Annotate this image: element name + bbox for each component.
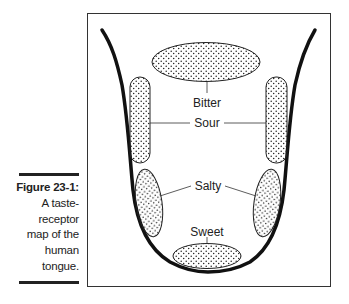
bitter-label: Bitter [193,96,221,110]
sweet-region [173,244,241,269]
salty-region-right [249,168,284,239]
tongue-diagram: Bitter Sour Salty Sweet [0,0,349,304]
salty-leader-line-right [225,186,256,196]
salty-leader-line-left [160,186,191,196]
sour-region-right [266,77,287,163]
salty-region-left [131,168,166,239]
salty-label: Salty [195,179,222,193]
sweet-label: Sweet [190,225,224,239]
bitter-region [152,43,260,82]
sour-label: Sour [194,116,219,130]
sour-region-left [130,77,150,163]
